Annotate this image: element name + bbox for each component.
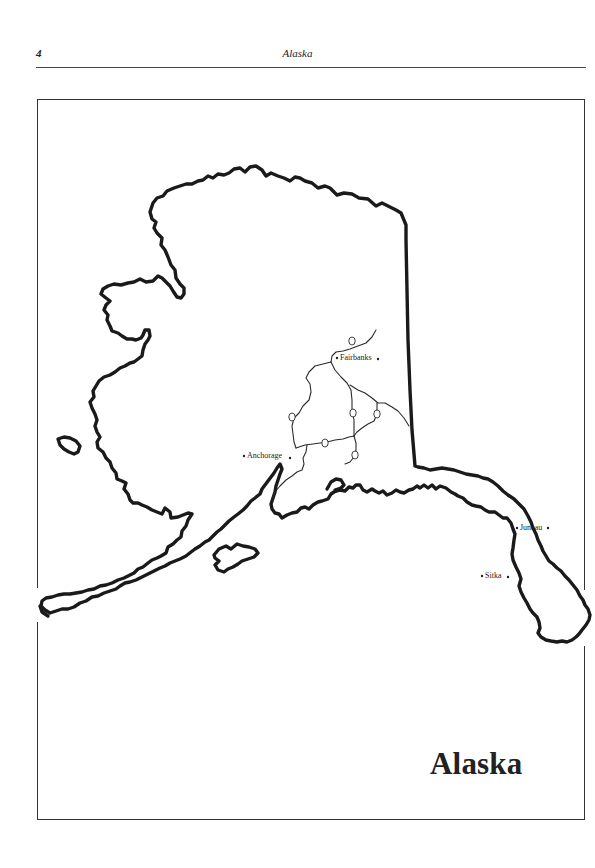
highway-shield-richardson (350, 409, 356, 417)
highway-shield-parks (289, 413, 295, 421)
alaska-map (0, 0, 595, 868)
city-label-juneau: Juneau (520, 523, 542, 532)
juneau-dot (516, 527, 518, 529)
road-alaska-hwy (350, 385, 409, 426)
highway-shield-south (352, 451, 358, 459)
road-richardson (331, 362, 354, 436)
st-lawrence-island (58, 437, 80, 454)
fairbanks-dot (336, 357, 338, 359)
road-richardson-south (345, 436, 356, 464)
sitka-dot (481, 575, 483, 577)
map-title: Alaska (430, 746, 523, 782)
highway-shield-steese (349, 337, 355, 345)
highway-shield-alaska (374, 410, 380, 418)
kenai-detail (327, 479, 344, 490)
road-parks (292, 362, 331, 448)
city-label-fairbanks: Fairbanks (340, 353, 372, 362)
kodiak-island (214, 544, 258, 572)
mainland-coastline (41, 166, 590, 642)
city-label-sitka: Sitka (485, 571, 501, 580)
road-tok-cutoff (354, 403, 377, 436)
city-label-anchorage: Anchorage (247, 451, 282, 460)
anchorage-dot (243, 455, 245, 457)
highway-shield-glenn (322, 439, 328, 447)
